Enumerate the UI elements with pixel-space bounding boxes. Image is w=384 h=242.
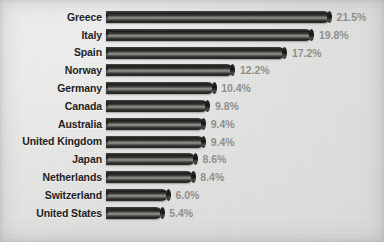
bar-value-label: 6.0% xyxy=(175,190,199,201)
category-label: Germany xyxy=(0,83,106,94)
bar-track: 5.4% xyxy=(106,204,384,222)
category-label: Italy xyxy=(0,30,106,41)
bar-start-edge xyxy=(106,82,108,94)
category-label: Spain xyxy=(0,47,106,58)
bar-value-label: 17.2% xyxy=(292,47,322,58)
bar-end-cap xyxy=(193,153,198,165)
bar-track: 9.8% xyxy=(106,97,384,115)
bar-cylinder xyxy=(106,171,193,183)
bar-cylinder xyxy=(106,82,214,94)
bar-end-cap xyxy=(309,29,314,41)
bar-track: 8.4% xyxy=(106,168,384,186)
category-label: Japan xyxy=(0,154,106,165)
bar-cylinder xyxy=(106,207,162,219)
chart-row: Switzerland6.0% xyxy=(0,186,384,204)
bar-value-label: 5.4% xyxy=(169,208,193,219)
bar-value-label: 8.4% xyxy=(200,172,224,183)
bar-end-cap xyxy=(191,171,196,183)
bar-cylinder xyxy=(106,11,330,23)
bar-end-cap xyxy=(205,100,210,112)
bar-value-label: 9.8% xyxy=(215,101,239,112)
bar-track: 6.0% xyxy=(106,186,384,204)
chart-row: Netherlands8.4% xyxy=(0,168,384,186)
bar-end-cap xyxy=(201,136,206,148)
bar-cylinder xyxy=(106,189,168,201)
chart-row: Norway12.2% xyxy=(0,61,384,79)
bar-cylinder xyxy=(106,136,204,148)
chart-row: Japan8.6% xyxy=(0,150,384,168)
bar-value-label: 9.4% xyxy=(211,119,235,130)
chart-plot-area: Greece21.5%Italy19.8%Spain17.2%Norway12.… xyxy=(0,0,384,242)
bar-track: 9.4% xyxy=(106,115,384,133)
chart-row: United States5.4% xyxy=(0,204,384,222)
bar-cylinder xyxy=(106,29,312,41)
category-label: United Kingdom xyxy=(0,136,106,147)
bar-end-cap xyxy=(212,82,217,94)
bar-value-label: 19.8% xyxy=(319,30,349,41)
chart-row: Italy19.8% xyxy=(0,26,384,44)
bar-value-label: 9.4% xyxy=(211,136,235,147)
bar-value-label: 21.5% xyxy=(337,12,367,23)
category-label: Norway xyxy=(0,65,106,76)
bar-end-cap xyxy=(327,11,332,23)
bar-start-edge xyxy=(106,47,108,59)
chart-row: Germany10.4% xyxy=(0,79,384,97)
bar-track: 10.4% xyxy=(106,79,384,97)
bar-start-edge xyxy=(106,118,108,130)
chart-row: Canada9.8% xyxy=(0,97,384,115)
chart-row: Greece21.5% xyxy=(0,8,384,26)
bar-start-edge xyxy=(106,153,108,165)
bar-start-edge xyxy=(106,100,108,112)
bar-start-edge xyxy=(106,29,108,41)
category-label: Australia xyxy=(0,119,106,130)
bar-track: 19.8% xyxy=(106,26,384,44)
bar-cylinder xyxy=(106,153,195,165)
bar-track: 12.2% xyxy=(106,61,384,79)
category-label: United States xyxy=(0,208,106,219)
bar-start-edge xyxy=(106,207,108,219)
bar-end-cap xyxy=(160,207,165,219)
category-label: Greece xyxy=(0,12,106,23)
bar-value-label: 12.2% xyxy=(240,65,270,76)
bar-start-edge xyxy=(106,64,108,76)
category-label: Canada xyxy=(0,101,106,112)
bar-cylinder xyxy=(106,118,204,130)
bar-start-edge xyxy=(106,136,108,148)
bar-end-cap xyxy=(166,189,171,201)
chart-row: Australia9.4% xyxy=(0,115,384,133)
bar-value-label: 10.4% xyxy=(221,83,251,94)
bar-track: 9.4% xyxy=(106,133,384,151)
bar-track: 17.2% xyxy=(106,44,384,62)
category-label: Netherlands xyxy=(0,172,106,183)
bar-start-edge xyxy=(106,171,108,183)
bar-cylinder xyxy=(106,47,285,59)
bar-cylinder xyxy=(106,64,233,76)
chart-row: Spain17.2% xyxy=(0,44,384,62)
bar-value-label: 8.6% xyxy=(202,154,226,165)
chart-row: United Kingdom9.4% xyxy=(0,133,384,151)
bar-chart: Greece21.5%Italy19.8%Spain17.2%Norway12.… xyxy=(0,0,384,242)
bar-start-edge xyxy=(106,189,108,201)
bar-track: 21.5% xyxy=(106,8,384,26)
category-label: Switzerland xyxy=(0,190,106,201)
bar-cylinder xyxy=(106,100,208,112)
bar-end-cap xyxy=(282,47,287,59)
bar-end-cap xyxy=(201,118,206,130)
bar-end-cap xyxy=(230,64,235,76)
bar-start-edge xyxy=(106,11,108,23)
bar-track: 8.6% xyxy=(106,150,384,168)
